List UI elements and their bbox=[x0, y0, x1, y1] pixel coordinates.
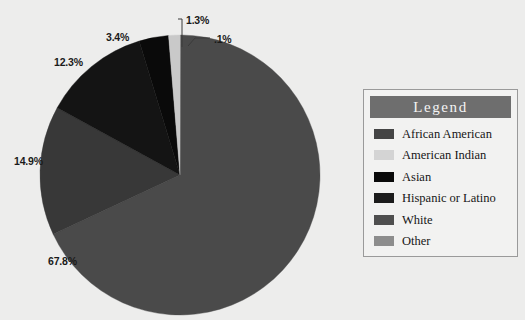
legend-swatch-icon bbox=[374, 150, 394, 160]
legend-item-label: Asian bbox=[402, 171, 431, 184]
pct-label-asian: 3.4% bbox=[106, 31, 129, 43]
legend-item-asian[interactable]: Asian bbox=[370, 166, 511, 188]
legend-item-white[interactable]: White bbox=[370, 209, 511, 231]
pct-label-white: 67.8% bbox=[48, 255, 77, 267]
pie-slice-group bbox=[40, 35, 320, 315]
legend-item-label: American Indian bbox=[402, 149, 486, 162]
legend-item-hispanic-or-latino[interactable]: Hispanic or Latino bbox=[370, 188, 511, 210]
legend-item-other[interactable]: Other bbox=[370, 231, 511, 253]
legend-title-bar: Legend bbox=[370, 96, 511, 118]
legend-swatch-icon bbox=[374, 193, 394, 203]
legend-item-american-indian[interactable]: American Indian bbox=[370, 145, 511, 167]
legend-swatch-icon bbox=[374, 129, 394, 139]
pct-label-other: .1% bbox=[214, 33, 232, 45]
legend-item-label: Hispanic or Latino bbox=[402, 192, 496, 205]
pct-label-american-indian: 1.3% bbox=[186, 14, 209, 26]
legend-swatch-icon bbox=[374, 215, 394, 225]
legend-item-african-american[interactable]: African American bbox=[370, 123, 511, 145]
pct-label-hispanic-or-latino: 12.3% bbox=[54, 56, 83, 68]
pct-label-african-american: 14.9% bbox=[14, 155, 43, 167]
legend: Legend African AmericanAmerican IndianAs… bbox=[363, 89, 518, 257]
legend-items: African AmericanAmerican IndianAsianHisp… bbox=[370, 123, 511, 252]
legend-title: Legend bbox=[413, 99, 468, 116]
legend-item-label: White bbox=[402, 214, 433, 227]
legend-swatch-icon bbox=[374, 236, 394, 246]
pie-chart-figure: 1.3% .1% 3.4% 12.3% 14.9% 67.8% Legend A… bbox=[0, 0, 525, 320]
legend-item-label: Other bbox=[402, 235, 430, 248]
legend-item-label: African American bbox=[402, 128, 492, 141]
legend-swatch-icon bbox=[374, 172, 394, 182]
